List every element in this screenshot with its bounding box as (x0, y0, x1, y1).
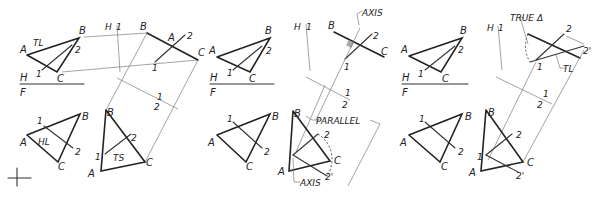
aux-label-2prime: 2' (583, 46, 591, 56)
descriptive-geometry-figure: A B C 1 2 TL H F H 1 B A C 1 2 1 2 (0, 0, 604, 198)
aux-label-2: 2 (373, 31, 379, 41)
fold-label-f: F (20, 87, 26, 98)
aux-fold-1: 1 (498, 23, 504, 33)
true-shape-triangle: B A C 1 2 TS (87, 107, 153, 179)
label-ts: TS (113, 153, 124, 163)
aux2-fold-2: 2 (537, 100, 543, 110)
parallel-label: PARALLEL (316, 116, 360, 126)
label-1: 1 (36, 69, 42, 79)
ts-label-b: B (294, 108, 301, 119)
aux-label-c: C (198, 47, 205, 58)
ts-label-1: 1 (95, 152, 101, 162)
front-view-triangle: A B C 1 2 HL (19, 111, 89, 172)
front-label-1: 1 (419, 114, 425, 124)
label-a: A (400, 44, 408, 55)
label-2: 2 (266, 46, 272, 56)
ts-label-c: C (146, 157, 153, 168)
axis-label-top: AXIS (361, 8, 383, 18)
aux-label-2: 2 (566, 24, 572, 34)
label-a: A (208, 45, 216, 56)
label-b: B (79, 25, 86, 36)
front-label-c: C (441, 161, 448, 172)
fold-label-f: F (210, 87, 216, 98)
front-label-b: B (465, 111, 472, 122)
front-label-c: C (246, 161, 253, 172)
aux2-fold-2: 2 (154, 102, 160, 112)
panel-3: A B C 1 2 H F H 1 1 2 2' TRUE Δ TL 1 2 A… (399, 13, 591, 181)
aux-label-c: C (381, 46, 388, 57)
ts-label-c: C (527, 157, 534, 168)
label-1: 1 (227, 68, 233, 78)
front-label-a: A (399, 137, 407, 148)
aux-label-b: B (140, 21, 147, 32)
aux-label-1: 1 (344, 62, 350, 72)
aux2-fold-2: 2 (342, 100, 348, 110)
front-label-1: 1 (227, 114, 233, 124)
fold-label-f: F (402, 87, 408, 98)
label-c: C (57, 73, 64, 84)
front-label-b: B (272, 111, 279, 122)
front-label-c: C (58, 161, 65, 172)
ts-label-b: B (488, 107, 495, 118)
fold-line-hf: H F (20, 72, 84, 98)
label-tl: TL (33, 38, 44, 48)
aux-fold-1: 1 (306, 22, 312, 32)
label-c: C (442, 73, 449, 84)
front-label-2: 2 (458, 147, 464, 157)
front-label-b: B (82, 111, 89, 122)
ts-label-2: 2 (131, 133, 137, 143)
front-label-a: A (207, 137, 215, 148)
ts-label-2: 2 (324, 130, 330, 140)
panel-1: A B C 1 2 TL H F H 1 B A C 1 2 1 2 (8, 21, 205, 186)
aux-label-a: A (167, 32, 175, 43)
top-view-triangle: A B C 1 2 TL (19, 25, 86, 84)
front-label-1: 1 (37, 116, 43, 126)
panel-2: A B C 1 2 H F H 1 B C 1 2 AXIS 1 2 A B C… (207, 8, 388, 188)
label-2: 2 (458, 45, 464, 55)
aux-fold-h: H (105, 22, 112, 32)
label-a: A (19, 44, 27, 55)
aux2-fold-1: 1 (543, 89, 549, 99)
front-label-a: A (19, 137, 27, 148)
label-hl: HL (38, 137, 50, 147)
ts-label-a: A (468, 167, 476, 178)
ts-label-2prime: 2' (325, 172, 333, 182)
label-b: B (460, 25, 467, 36)
ts-label-a: A (87, 168, 95, 179)
registration-crosshair (8, 168, 31, 186)
aux-label-1: 1 (152, 63, 158, 73)
aux-label-1: 1 (537, 62, 543, 72)
aux-fold-h: H (294, 22, 301, 32)
front-label-2: 2 (264, 147, 270, 157)
true-angle-label: TRUE Δ (510, 13, 543, 23)
label-b: B (265, 25, 272, 36)
fold-label-h: H (20, 72, 28, 83)
ts-label-2prime: 2' (516, 171, 524, 181)
ts-label-c: C (334, 155, 341, 166)
ts-label-1: 1 (477, 152, 483, 162)
ts-label-2: 2 (516, 130, 522, 140)
label-2: 2 (75, 45, 81, 55)
ts-label-a: A (277, 166, 285, 177)
label-1: 1 (418, 69, 424, 79)
aux-fold-1: 1 (116, 22, 122, 32)
aux2-fold-1: 1 (345, 88, 351, 98)
aux2-fold-1: 1 (157, 92, 163, 102)
aux-fold-h: H (487, 23, 494, 33)
fold-label-h: H (402, 72, 410, 83)
label-c: C (249, 73, 256, 84)
axis-label-bottom: AXIS (299, 178, 321, 188)
ts-label-b: B (107, 107, 114, 118)
fold-label-h: H (210, 72, 218, 83)
aux-label-b: B (328, 20, 335, 31)
front-label-2: 2 (75, 147, 81, 157)
aux-label-2: 2 (187, 31, 193, 41)
